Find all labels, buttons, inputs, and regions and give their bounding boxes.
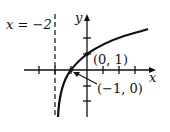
point-0-1-dot [85, 52, 89, 56]
asymptote-label: x = −2 [6, 17, 52, 32]
point-label-0-1: (0, 1) [93, 52, 128, 67]
y-axis [83, 14, 91, 117]
x-axis [24, 66, 156, 74]
function-graph: x = −2 y x (0, 1) (−1, 0) [0, 0, 170, 132]
y-axis-label: y [74, 10, 83, 25]
x-axis-label: x [149, 70, 157, 85]
point-label-neg1-0: (−1, 0) [97, 81, 143, 96]
leader-arrow [73, 72, 97, 84]
point-neg1-0-dot [69, 68, 73, 72]
